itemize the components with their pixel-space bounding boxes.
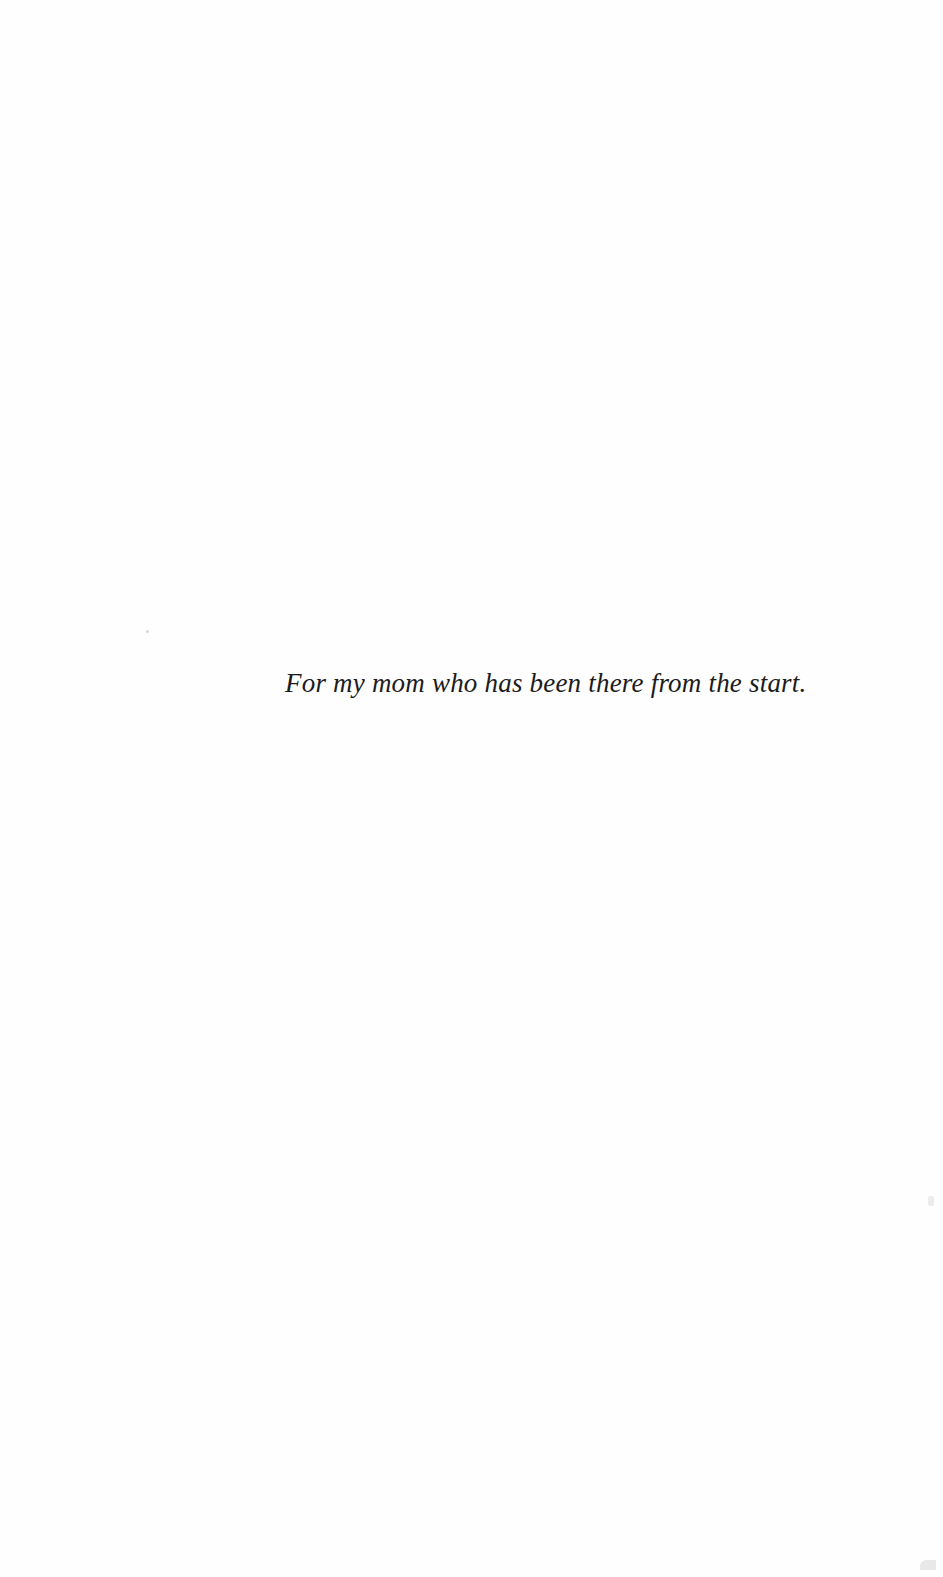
scan-speck xyxy=(146,630,149,633)
book-page: For my mom who has been there from the s… xyxy=(0,0,943,1577)
scan-edge-mark xyxy=(928,1196,934,1206)
dedication-text: For my mom who has been there from the s… xyxy=(285,668,806,699)
scan-corner-mark xyxy=(920,1560,936,1570)
